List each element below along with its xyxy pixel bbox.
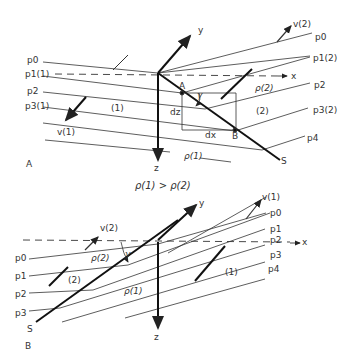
label-b-p3-right: p3 xyxy=(270,251,281,260)
label-a-p3-left: p3(1) xyxy=(25,102,49,111)
label-a-s: S xyxy=(281,157,287,166)
label-a-point-a: A xyxy=(179,82,185,91)
label-b-p2-right: p2 xyxy=(270,236,281,245)
label-b-gamma: γ xyxy=(125,250,130,259)
label-b-z: z xyxy=(154,333,159,342)
label-a-p2-left: p2 xyxy=(27,87,38,96)
label-a-dx: dx xyxy=(205,131,216,140)
label-b-p0-right: p0 xyxy=(270,209,281,218)
label-a-rho2: ρ(2) xyxy=(255,84,273,93)
label-a-p0-right: p0 xyxy=(315,33,326,42)
label-b-p0-left: p0 xyxy=(15,254,26,263)
panel-a xyxy=(43,26,312,162)
label-panel-b: B xyxy=(25,342,31,351)
label-b-p4-right: p4 xyxy=(268,265,279,274)
label-a-gamma: γ xyxy=(197,91,202,100)
label-a-z: z xyxy=(154,164,159,173)
label-a-v1: v(1) xyxy=(57,128,75,137)
label-b-p3-left: p3 xyxy=(15,309,26,318)
label-a-y: y xyxy=(198,26,203,35)
label-a-p0-left: p0 xyxy=(27,56,38,65)
label-a-p3-right: p3(2) xyxy=(313,106,337,115)
label-b-medium-1: (1) xyxy=(225,268,238,277)
label-a-v2: v(2) xyxy=(293,20,311,29)
label-a-point-b: B xyxy=(232,132,238,141)
density-relation: ρ(1) > ρ(2) xyxy=(135,181,191,191)
label-a-medium-1: (1) xyxy=(111,104,124,113)
label-b-p1-right: p1 xyxy=(270,225,281,234)
label-b-v2: v(2) xyxy=(100,224,118,233)
label-a-x: x xyxy=(291,72,296,81)
label-b-v1: v(1) xyxy=(262,193,280,202)
label-a-p4-right: p4 xyxy=(307,134,318,143)
label-b-rho2: ρ(2) xyxy=(91,254,109,263)
panel-b xyxy=(23,197,300,328)
label-b-s: S xyxy=(27,325,33,334)
label-a-medium-2: (2) xyxy=(256,107,269,116)
label-panel-a: A xyxy=(26,160,32,169)
label-a-p1-left: p1(1) xyxy=(25,70,49,79)
label-a-rho1: ρ(1) xyxy=(184,152,202,161)
label-b-p1-left: p1 xyxy=(15,272,26,281)
label-b-y: y xyxy=(199,199,204,208)
label-b-x: x xyxy=(302,238,307,247)
label-a-p1-right: p1(2) xyxy=(313,54,337,63)
label-b-p2-left: p2 xyxy=(15,290,26,299)
label-a-p2-right: p2 xyxy=(314,81,325,90)
label-b-rho1: ρ(1) xyxy=(124,287,142,296)
label-b-medium-2: (2) xyxy=(68,276,81,285)
label-a-dz: dz xyxy=(170,108,180,117)
